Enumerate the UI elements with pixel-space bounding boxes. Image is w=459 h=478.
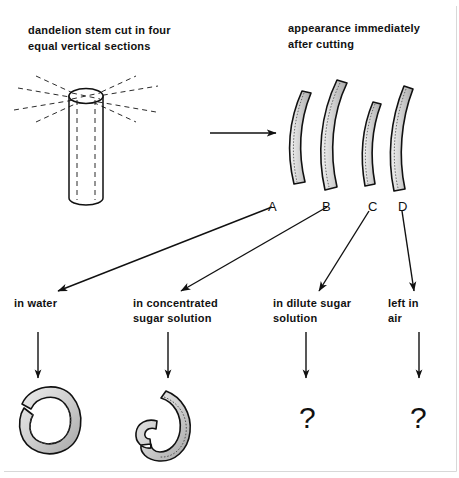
diagram-canvas: dandelion stem cut in four equal vertica… — [0, 0, 459, 478]
treatment-d-line1: left in — [388, 297, 419, 309]
dandelion-osmosis-diagram: dandelion stem cut in four equal vertica… — [0, 0, 459, 478]
treatment-c-line2: solution — [273, 312, 317, 324]
result-unknown-c: ? — [299, 401, 316, 434]
treatment-d-line2: air — [388, 312, 403, 324]
result-unknown-d: ? — [410, 401, 427, 434]
header-left-line1: dandelion stem cut in four — [28, 24, 171, 36]
treatment-b-line2: sugar solution — [133, 312, 212, 324]
treatment-a-line1: in water — [14, 297, 58, 309]
arrow-a-to-water — [58, 207, 272, 291]
cut-strips-group — [290, 80, 413, 191]
treatment-b-line1: in concentrated — [133, 297, 218, 309]
header-right-line1: appearance immediately — [288, 22, 421, 34]
fanout-arrows-group — [58, 207, 414, 291]
result-shape-a — [20, 387, 81, 454]
strip-label-a: A — [268, 199, 277, 214]
strip-c — [362, 102, 381, 186]
strip-a — [290, 91, 311, 184]
strip-b — [321, 80, 347, 190]
strip-label-c: C — [368, 199, 377, 214]
cylinder-stem-icon — [69, 89, 103, 206]
arrow-b-to-concentrated — [181, 207, 327, 291]
header-left-line2: equal vertical sections — [28, 40, 151, 52]
result-shape-b — [136, 391, 190, 461]
arrow-d-to-air — [402, 211, 414, 291]
strip-d — [390, 86, 413, 191]
treatment-c-line1: in dilute sugar — [273, 297, 352, 309]
result-arrows-group — [38, 332, 419, 378]
header-right-line2: after cutting — [288, 38, 354, 50]
arrow-c-to-dilute — [319, 211, 369, 291]
strip-label-b: B — [322, 199, 331, 214]
